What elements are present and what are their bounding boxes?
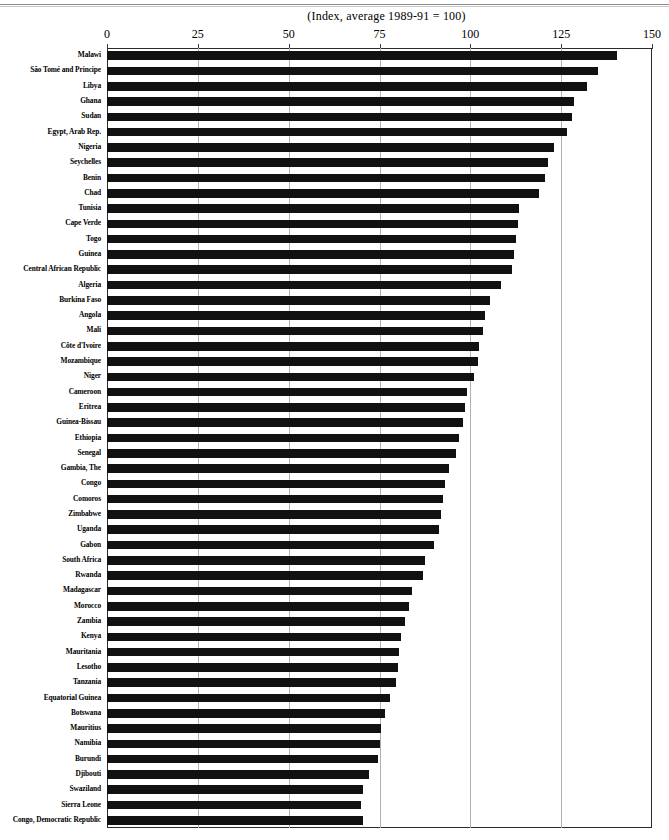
bar[interactable] bbox=[107, 602, 409, 611]
bar[interactable] bbox=[107, 67, 598, 76]
bar-row[interactable] bbox=[107, 308, 652, 323]
bar[interactable] bbox=[107, 434, 459, 443]
bar-row[interactable] bbox=[107, 63, 652, 78]
bar[interactable] bbox=[107, 220, 518, 229]
bar-row[interactable] bbox=[107, 293, 652, 308]
bar-row[interactable] bbox=[107, 339, 652, 354]
bar-row[interactable] bbox=[107, 476, 652, 491]
bar[interactable] bbox=[107, 587, 412, 596]
bar-row[interactable] bbox=[107, 186, 652, 201]
bar[interactable] bbox=[107, 51, 617, 60]
bar-row[interactable] bbox=[107, 553, 652, 568]
bar-row[interactable] bbox=[107, 583, 652, 598]
bar-row[interactable] bbox=[107, 461, 652, 476]
bar-row[interactable] bbox=[107, 797, 652, 812]
bar-row[interactable] bbox=[107, 767, 652, 782]
bar-row[interactable] bbox=[107, 216, 652, 231]
bar-row[interactable] bbox=[107, 537, 652, 552]
bar[interactable] bbox=[107, 418, 463, 427]
bar-row[interactable] bbox=[107, 140, 652, 155]
bar-row[interactable] bbox=[107, 599, 652, 614]
bar[interactable] bbox=[107, 327, 483, 336]
bar[interactable] bbox=[107, 755, 378, 764]
bar-row[interactable] bbox=[107, 415, 652, 430]
bar[interactable] bbox=[107, 785, 363, 794]
bar[interactable] bbox=[107, 633, 401, 642]
bar[interactable] bbox=[107, 113, 572, 122]
bar[interactable] bbox=[107, 571, 423, 580]
bar[interactable] bbox=[107, 281, 501, 290]
bar-row[interactable] bbox=[107, 354, 652, 369]
bar-row[interactable] bbox=[107, 721, 652, 736]
bar-row[interactable] bbox=[107, 675, 652, 690]
bar-row[interactable] bbox=[107, 813, 652, 828]
bar[interactable] bbox=[107, 480, 445, 489]
bar[interactable] bbox=[107, 464, 449, 473]
bar[interactable] bbox=[107, 82, 587, 91]
bar[interactable] bbox=[107, 663, 398, 672]
bar[interactable] bbox=[107, 250, 514, 259]
bar[interactable] bbox=[107, 770, 369, 779]
bar-row[interactable] bbox=[107, 400, 652, 415]
bar-row[interactable] bbox=[107, 752, 652, 767]
bar[interactable] bbox=[107, 311, 485, 320]
bar-row[interactable] bbox=[107, 170, 652, 185]
bar-row[interactable] bbox=[107, 629, 652, 644]
bar[interactable] bbox=[107, 740, 380, 749]
bar[interactable] bbox=[107, 296, 490, 305]
bar[interactable] bbox=[107, 204, 519, 213]
bar[interactable] bbox=[107, 158, 548, 167]
bar-row[interactable] bbox=[107, 736, 652, 751]
bar-row[interactable] bbox=[107, 706, 652, 721]
bar-row[interactable] bbox=[107, 262, 652, 277]
bar[interactable] bbox=[107, 556, 425, 565]
bar[interactable] bbox=[107, 174, 545, 183]
bar-row[interactable] bbox=[107, 109, 652, 124]
bar[interactable] bbox=[107, 235, 516, 244]
bar[interactable] bbox=[107, 189, 539, 198]
bar-row[interactable] bbox=[107, 568, 652, 583]
bar-row[interactable] bbox=[107, 782, 652, 797]
bar[interactable] bbox=[107, 648, 399, 657]
bar-row[interactable] bbox=[107, 124, 652, 139]
bar[interactable] bbox=[107, 541, 434, 550]
bar[interactable] bbox=[107, 816, 363, 825]
bar[interactable] bbox=[107, 143, 554, 152]
bar-row[interactable] bbox=[107, 94, 652, 109]
bar-row[interactable] bbox=[107, 507, 652, 522]
bar-row[interactable] bbox=[107, 247, 652, 262]
bar-row[interactable] bbox=[107, 155, 652, 170]
bar-row[interactable] bbox=[107, 446, 652, 461]
bar[interactable] bbox=[107, 709, 385, 718]
bar-row[interactable] bbox=[107, 430, 652, 445]
bar-row[interactable] bbox=[107, 323, 652, 338]
bar[interactable] bbox=[107, 128, 567, 137]
bar[interactable] bbox=[107, 449, 456, 458]
bar[interactable] bbox=[107, 694, 390, 703]
bar-row[interactable] bbox=[107, 660, 652, 675]
bar-row[interactable] bbox=[107, 369, 652, 384]
bar-row[interactable] bbox=[107, 522, 652, 537]
bar[interactable] bbox=[107, 525, 439, 534]
bar[interactable] bbox=[107, 97, 574, 106]
bar-row[interactable] bbox=[107, 201, 652, 216]
bar[interactable] bbox=[107, 265, 512, 274]
bar[interactable] bbox=[107, 403, 465, 412]
bar[interactable] bbox=[107, 342, 479, 351]
bar[interactable] bbox=[107, 373, 474, 382]
bar[interactable] bbox=[107, 617, 405, 626]
bar-row[interactable] bbox=[107, 644, 652, 659]
bar-row[interactable] bbox=[107, 79, 652, 94]
bar[interactable] bbox=[107, 801, 361, 810]
bar-row[interactable] bbox=[107, 614, 652, 629]
bar-row[interactable] bbox=[107, 232, 652, 247]
bar[interactable] bbox=[107, 678, 396, 687]
bar[interactable] bbox=[107, 510, 441, 519]
bar-row[interactable] bbox=[107, 492, 652, 507]
bar-row[interactable] bbox=[107, 48, 652, 63]
bar[interactable] bbox=[107, 388, 467, 397]
bar-row[interactable] bbox=[107, 277, 652, 292]
bar[interactable] bbox=[107, 495, 443, 504]
bar-row[interactable] bbox=[107, 384, 652, 399]
bar-row[interactable] bbox=[107, 690, 652, 705]
